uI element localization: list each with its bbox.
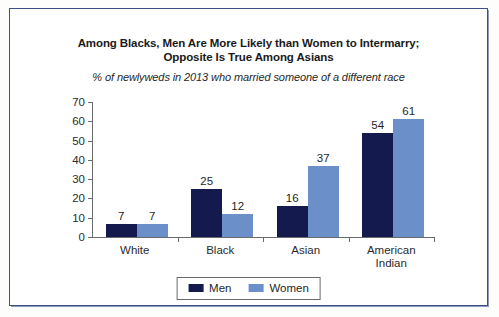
chart-title-line2: Opposite Is True Among Asians (10, 50, 487, 64)
bar-women-american-indian (393, 119, 424, 237)
y-axis-tick-label: 0 (79, 231, 85, 243)
y-axis-tick-label: 10 (72, 212, 85, 224)
y-axis-tick-label: 30 (72, 173, 85, 185)
chart-frame: Among Blacks, Men Are More Likely than W… (9, 8, 488, 306)
chart-title-line1: Among Blacks, Men Are More Likely than W… (10, 36, 487, 50)
bar-men-asian (277, 206, 308, 237)
legend-swatch-women (248, 284, 263, 292)
bar-men-white (106, 224, 137, 238)
legend-swatch-men (188, 284, 203, 292)
bar-group: 2512 (191, 102, 253, 237)
legend-item-women[interactable]: Women (248, 282, 308, 294)
bar-women-black (222, 214, 253, 237)
chart-subtitle: % of newlyweds in 2013 who married someo… (10, 71, 487, 83)
y-axis-tick-label: 50 (72, 135, 85, 147)
x-axis-label-american-indian: AmericanIndian (349, 244, 435, 270)
chart-screenshot: Among Blacks, Men Are More Likely than W… (0, 0, 499, 317)
bar-group: 1637 (277, 102, 339, 237)
y-axis-tick (88, 121, 92, 122)
legend-label: Men (209, 282, 231, 294)
bar-value-label: 12 (222, 200, 253, 212)
bar-value-label: 7 (137, 210, 168, 222)
y-axis-tick (88, 198, 92, 199)
plot-area: 010203040506070 77251216375461 WhiteBlac… (92, 102, 434, 237)
chart-legend: MenWomen (176, 277, 321, 300)
bar-value-label: 37 (308, 152, 339, 164)
bar-men-black (191, 189, 222, 237)
legend-label: Women (269, 282, 308, 294)
x-axis-label-black: Black (178, 244, 264, 257)
y-axis-tick (88, 218, 92, 219)
y-axis-tick-label: 40 (72, 154, 85, 166)
bar-group: 5461 (362, 102, 424, 237)
y-axis-tick (88, 141, 92, 142)
bar-value-label: 54 (362, 119, 393, 131)
x-axis-tick (178, 238, 179, 242)
legend-item-men[interactable]: Men (188, 282, 231, 294)
y-axis-tick-label: 20 (72, 192, 85, 204)
x-axis-tick (434, 238, 435, 242)
y-axis-tick-label: 70 (72, 96, 85, 108)
y-axis-tick-label: 60 (72, 115, 85, 127)
bar-value-label: 16 (277, 192, 308, 204)
bar-women-asian (308, 166, 339, 237)
bar-value-label: 25 (191, 175, 222, 187)
x-axis-label-white: White (92, 244, 178, 257)
bar-men-american-indian (362, 133, 393, 237)
bar-group: 77 (106, 102, 168, 237)
bar-value-label: 61 (393, 105, 424, 117)
bar-value-label: 7 (106, 210, 137, 222)
y-axis-tick (88, 237, 92, 238)
y-axis-tick (88, 102, 92, 103)
y-axis-line (92, 102, 93, 237)
y-axis-tick (88, 160, 92, 161)
x-axis-label-asian: Asian (263, 244, 349, 257)
x-axis-tick (263, 238, 264, 242)
bar-women-white (137, 224, 168, 238)
x-axis-tick (349, 238, 350, 242)
y-axis-tick (88, 179, 92, 180)
